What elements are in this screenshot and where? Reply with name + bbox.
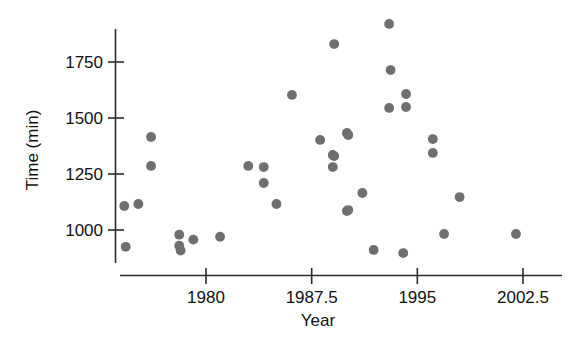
data-point	[176, 246, 186, 256]
data-point	[343, 205, 353, 215]
data-point	[401, 102, 411, 112]
data-point	[146, 132, 156, 142]
x-tick-label: 1980	[187, 288, 225, 307]
data-point	[401, 89, 411, 99]
data-point	[121, 242, 131, 252]
y-tick-label: 1000	[65, 221, 103, 240]
data-point	[384, 103, 394, 113]
data-point	[439, 229, 449, 239]
data-point	[357, 188, 367, 198]
y-axis: 1000125015001750	[65, 29, 124, 263]
y-tick-label: 1250	[65, 165, 103, 184]
data-point	[243, 161, 253, 171]
data-point	[259, 162, 269, 172]
y-tick-label: 1500	[65, 109, 103, 128]
x-axis: 19801987.519952002.5	[120, 268, 562, 307]
data-point	[215, 232, 225, 242]
data-point	[384, 19, 394, 29]
data-point	[133, 199, 143, 209]
y-tick-label: 1750	[65, 53, 103, 72]
data-point	[119, 201, 129, 211]
data-point	[329, 151, 339, 161]
scatter-chart: 1000125015001750 19801987.519952002.5 Ti…	[0, 0, 577, 344]
data-point	[287, 90, 297, 100]
y-axis-title: Time (min)	[23, 110, 42, 191]
data-point	[343, 130, 353, 140]
data-point	[174, 230, 184, 240]
data-point	[398, 248, 408, 258]
x-tick-label: 2002.5	[497, 288, 549, 307]
data-point	[369, 245, 379, 255]
data-point	[146, 161, 156, 171]
data-point	[386, 65, 396, 75]
plot-area: 1000125015001750 19801987.519952002.5 Ti…	[0, 0, 577, 344]
x-tick-label: 1995	[398, 288, 436, 307]
x-axis-title: Year	[301, 311, 336, 330]
data-point	[272, 199, 282, 209]
data-point	[329, 39, 339, 49]
data-point	[259, 178, 269, 188]
data-point	[511, 229, 521, 239]
data-point	[428, 148, 438, 158]
x-tick-label: 1987.5	[286, 288, 338, 307]
data-point-group	[119, 19, 521, 258]
data-point	[328, 162, 338, 172]
data-point	[428, 134, 438, 144]
x-tick-group: 19801987.519952002.5	[187, 268, 549, 307]
data-point	[455, 192, 465, 202]
data-point	[315, 135, 325, 145]
data-point	[188, 235, 198, 245]
